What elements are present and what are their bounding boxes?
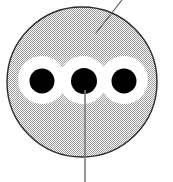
diagram-canvas xyxy=(0,0,173,182)
core-middle xyxy=(71,68,97,94)
cross-section-diagram xyxy=(0,0,173,182)
core-group xyxy=(30,68,137,94)
core-right xyxy=(112,69,137,94)
core-left xyxy=(30,69,55,94)
